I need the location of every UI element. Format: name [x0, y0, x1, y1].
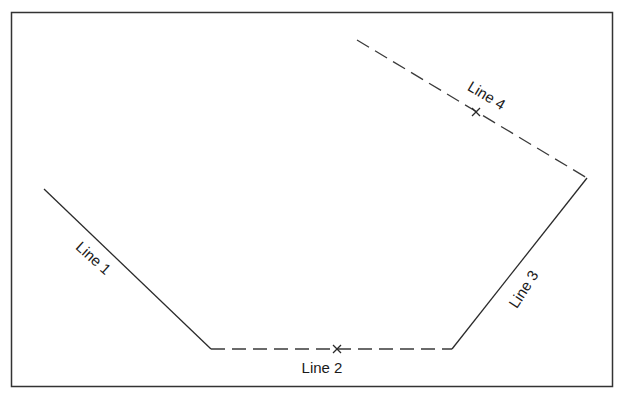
line-3 [452, 178, 587, 349]
line-3-group: Line 3 [452, 178, 587, 349]
line-4 [357, 40, 587, 178]
line-4-group: Line 4 [357, 40, 587, 178]
line-1-label: Line 1 [73, 238, 115, 278]
line-1 [44, 189, 211, 349]
line-2-label: Line 2 [302, 359, 343, 376]
diagram-frame [12, 13, 613, 387]
line-2-group: Line 2 [211, 345, 452, 376]
line-diagram: Line 1 Line 2 Line 3 Line 4 [0, 0, 618, 394]
line-1-group: Line 1 [44, 189, 211, 349]
line-4-label: Line 4 [465, 77, 509, 113]
midpoint-marker-icon [472, 108, 480, 116]
